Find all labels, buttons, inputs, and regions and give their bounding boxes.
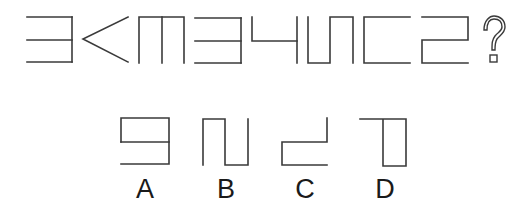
sequence-figure-5 bbox=[252, 17, 297, 63]
option-d-label[interactable]: D bbox=[370, 176, 400, 203]
sequence-figure-7 bbox=[364, 17, 410, 63]
option-a-figure[interactable] bbox=[121, 118, 169, 164]
option-d-figure[interactable] bbox=[360, 119, 406, 166]
sequence-figure-3 bbox=[139, 17, 184, 63]
option-c-label[interactable]: C bbox=[290, 176, 320, 203]
option-a-label[interactable]: A bbox=[130, 176, 160, 203]
sequence-figure-8 bbox=[422, 17, 468, 63]
sequence-figure-6 bbox=[308, 17, 353, 63]
sequence-figure-1 bbox=[27, 17, 72, 62]
sequence-figure-4 bbox=[195, 18, 241, 63]
option-b-figure[interactable] bbox=[203, 119, 248, 165]
puzzle-canvas bbox=[0, 0, 511, 210]
option-b-label[interactable]: B bbox=[211, 176, 241, 203]
option-c-figure[interactable] bbox=[282, 118, 327, 165]
question-mark-icon bbox=[484, 16, 505, 62]
sequence-figure-2 bbox=[83, 17, 128, 62]
